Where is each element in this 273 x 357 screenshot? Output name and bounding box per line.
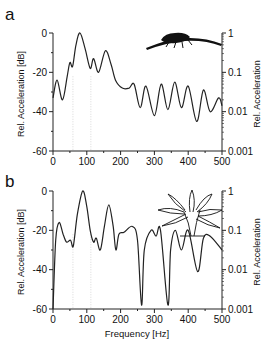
- x-tick-label: 0: [50, 156, 56, 167]
- y-right-tick-label: 0.01: [228, 264, 248, 275]
- y-tick-label: -40: [33, 106, 48, 117]
- x-tick-label: 400: [180, 156, 197, 167]
- x-tick-label: 500: [214, 314, 231, 325]
- y-axis-label-right-a: Rel. Acceleration: [252, 60, 262, 128]
- y-axis-label-left-b: Rel. Acceleration [dB]: [16, 209, 26, 295]
- y-right-tick-label: 1: [228, 28, 234, 39]
- panel-label-a: a: [5, 5, 15, 24]
- y-right-tick-label: 0.1: [228, 67, 242, 78]
- y-tick-label: -20: [33, 225, 48, 236]
- x-tick-label: 400: [180, 314, 197, 325]
- y-tick-label: 0: [41, 28, 47, 39]
- axes-b: 0-20-40-60010020030040050010.10.010.001: [33, 186, 254, 326]
- y-tick-label: -60: [33, 146, 48, 157]
- y-axis-label-left-a: Rel. Acceleration [dB]: [16, 51, 26, 137]
- panel-label-b: b: [5, 172, 14, 191]
- x-tick-label: 0: [50, 314, 56, 325]
- y-right-tick-label: 1: [228, 186, 234, 197]
- panel-a: a 0-20-40-60010020030040050010.10.010.00…: [5, 5, 262, 167]
- x-tick-label: 100: [78, 156, 95, 167]
- x-tick-label: 100: [78, 314, 95, 325]
- x-tick-label: 500: [214, 156, 231, 167]
- y-right-tick-label: 0.01: [228, 106, 248, 117]
- y-tick-label: -40: [33, 264, 48, 275]
- figure: a 0-20-40-60010020030040050010.10.010.00…: [0, 0, 273, 357]
- x-tick-label: 200: [112, 314, 129, 325]
- x-axis-label: Frequency [Hz]: [105, 328, 169, 339]
- x-tick-label: 300: [146, 314, 163, 325]
- y-right-tick-label: 0.1: [228, 225, 242, 236]
- y-right-tick-label: 0.001: [228, 304, 253, 315]
- y-tick-label: 0: [41, 186, 47, 197]
- y-right-tick-label: 0.001: [228, 146, 253, 157]
- spectrum-curve-a: [53, 33, 222, 122]
- panel-b: b 0-20-40-60010020030040050010.10.010.00…: [5, 172, 262, 339]
- y-tick-label: -20: [33, 67, 48, 78]
- y-axis-label-right-b: Rel. Acceleration: [252, 218, 262, 286]
- x-tick-label: 300: [146, 156, 163, 167]
- plant-illustration: [158, 190, 222, 236]
- reference-lines: [73, 76, 91, 151]
- y-tick-label: -60: [33, 304, 48, 315]
- x-tick-label: 200: [112, 156, 129, 167]
- insect-illustration: [146, 33, 222, 50]
- reference-lines: [73, 234, 91, 309]
